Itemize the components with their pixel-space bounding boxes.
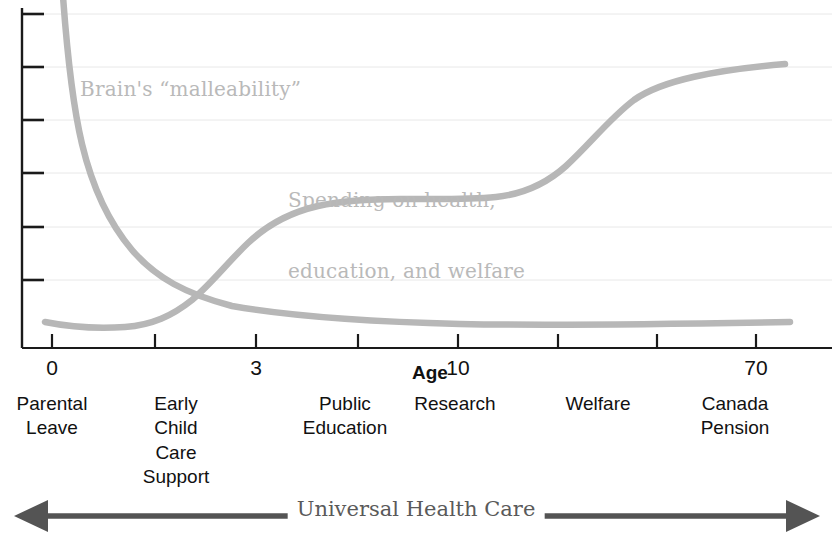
x-axis-ticks: [52, 334, 756, 348]
program-label-research: Research: [414, 392, 495, 416]
figure-root: Brain's “malleability” Spending on healt…: [0, 0, 832, 547]
series-label-brain-malleability: Brain's “malleability”: [80, 78, 301, 102]
x-tick-label-10: 10: [446, 356, 469, 380]
universal-health-care-label: Universal Health Care: [288, 497, 545, 521]
program-label-public-education: Public Education: [303, 392, 388, 441]
series-label-spending: Spending on health, education, and welfa…: [288, 142, 525, 331]
program-label-canada-pension: Canada Pension: [701, 392, 770, 441]
program-label-welfare: Welfare: [565, 392, 630, 416]
series-label-spending-line1: Spending on health,: [288, 189, 525, 213]
x-tick-label-0: 0: [46, 356, 58, 380]
x-tick-label-3: 3: [250, 356, 262, 380]
x-axis-title: Age: [412, 362, 448, 384]
x-tick-label-70: 70: [744, 356, 767, 380]
y-axis-ticks: [22, 14, 44, 280]
series-label-spending-line2: education, and welfare: [288, 260, 525, 284]
program-label-early-child-care: Early Child Care Support: [143, 392, 210, 489]
program-label-parental-leave: Parental Leave: [17, 392, 88, 441]
